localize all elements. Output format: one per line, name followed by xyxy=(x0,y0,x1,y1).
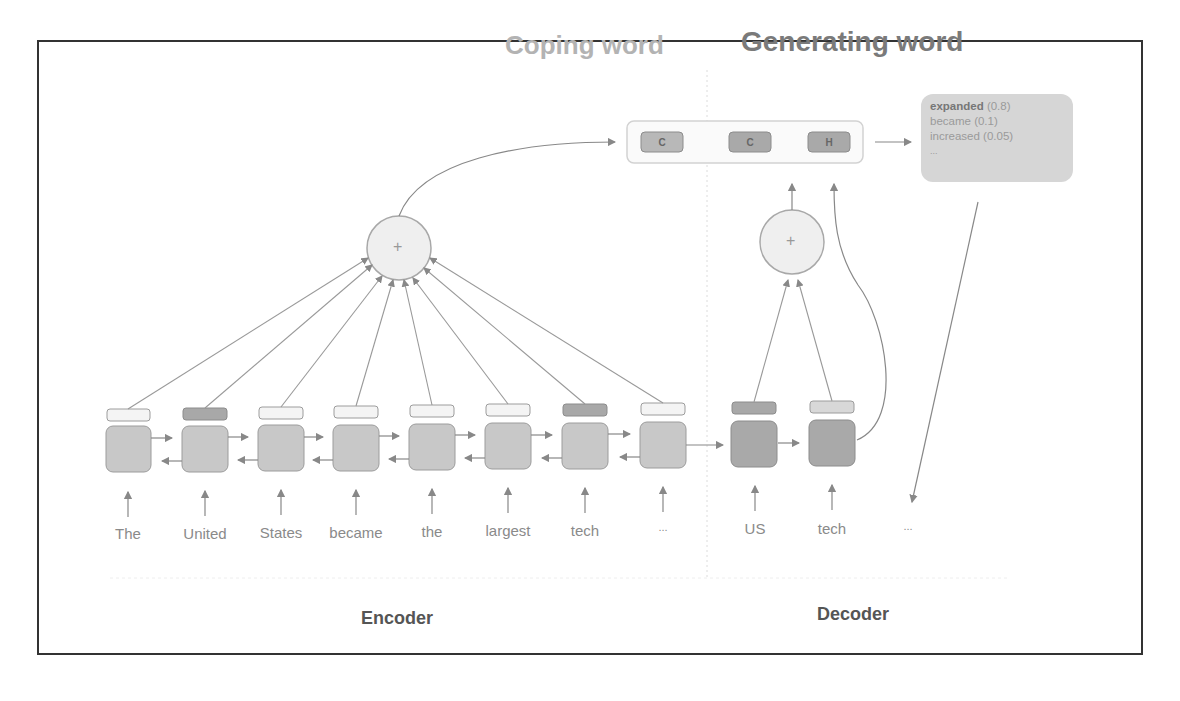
dist-item: ... xyxy=(930,144,1064,159)
encoder-token: ... xyxy=(658,521,667,533)
copy-cell-label-2: C xyxy=(746,137,753,148)
decoder-label: Decoder xyxy=(817,604,889,625)
plus-icon: + xyxy=(393,238,402,256)
plus-icon: + xyxy=(786,232,795,250)
decoder-cells xyxy=(731,280,855,467)
encoder-token: became xyxy=(329,524,382,541)
decoder-token: ... xyxy=(903,520,912,532)
encoder-token: United xyxy=(183,525,226,542)
encoder-token: largest xyxy=(485,522,530,539)
encoder-token: the xyxy=(422,523,443,540)
dist-item: expanded (0.8) xyxy=(930,99,1064,114)
generate-cell-label: H xyxy=(825,137,832,148)
encoder-token: The xyxy=(115,525,141,542)
encoder-token: tech xyxy=(571,522,599,539)
decoder-token: tech xyxy=(818,520,846,537)
decoder-token: US xyxy=(745,520,766,537)
copying-title: Coping word xyxy=(505,30,664,61)
copy-cell-label: C xyxy=(658,137,665,148)
encoder-cells xyxy=(106,258,832,517)
vocab-distribution: expanded (0.8) became (0.1) increased (0… xyxy=(921,94,1073,182)
encoder-label: Encoder xyxy=(361,608,433,629)
generating-title: Generating word xyxy=(741,26,963,58)
dist-item: became (0.1) xyxy=(930,114,1064,129)
encoder-token: States xyxy=(260,524,303,541)
dist-item: increased (0.05) xyxy=(930,129,1064,144)
